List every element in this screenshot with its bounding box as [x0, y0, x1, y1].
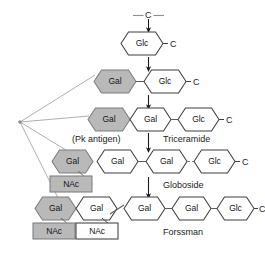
hex-label-r1-glc: Glc	[121, 39, 163, 48]
hex-label-r5-gal-c: Gal	[172, 204, 211, 213]
fan-line-to-row3	[20, 116, 89, 122]
hex-label-r5-gal-b: Gal	[124, 204, 165, 213]
hex-label-r3-gal: Gal	[130, 115, 171, 124]
hex-label-r3-glc: Glc	[178, 115, 219, 124]
hex-label-r2-gal: Gal	[94, 77, 136, 86]
caption-triceramide: Triceramide	[163, 134, 210, 144]
fan-line-to-row2	[20, 75, 95, 122]
box-label-r5-nac-plain: NAc	[76, 227, 118, 236]
hex-label-r4-glc: Glc	[194, 157, 235, 166]
hex-label-r3-gal-shaded: Gal	[88, 115, 130, 124]
figure-canvas: C Glc C Gal Glc C Gal Gal Glc C (Pk anti…	[0, 0, 265, 254]
hex-label-r5-gal-a: Gal	[76, 204, 117, 213]
hex-label-r2-glc: Glc	[144, 77, 186, 86]
precursor-label: C	[145, 10, 151, 20]
hex-label-r4-gal-b: Gal	[146, 157, 187, 166]
box-label-r5-nac-shaded: NAc	[33, 227, 75, 236]
caption-pk-antigen: (Pk antigen)	[72, 134, 121, 144]
ceramide-mark-r3: C	[226, 115, 233, 125]
hex-label-r5-gal-shaded: Gal	[35, 204, 76, 213]
hex-label-r4-gal-a: Gal	[97, 157, 138, 166]
ceramide-mark-r2: C	[193, 77, 200, 87]
ceramide-mark-r1: C	[170, 39, 177, 49]
ceramide-mark-r4: C	[242, 157, 249, 167]
caption-globoside: Globoside	[163, 180, 204, 190]
hex-label-r5-glc: Glc	[217, 204, 254, 213]
caption-forssman: Forssman	[163, 227, 203, 237]
ceramide-mark-r5: C	[259, 204, 265, 214]
donor-hub-node	[18, 120, 21, 123]
hex-label-r4-gal-shaded: Gal	[52, 157, 93, 166]
box-label-r4-nac: NAc	[50, 180, 92, 189]
